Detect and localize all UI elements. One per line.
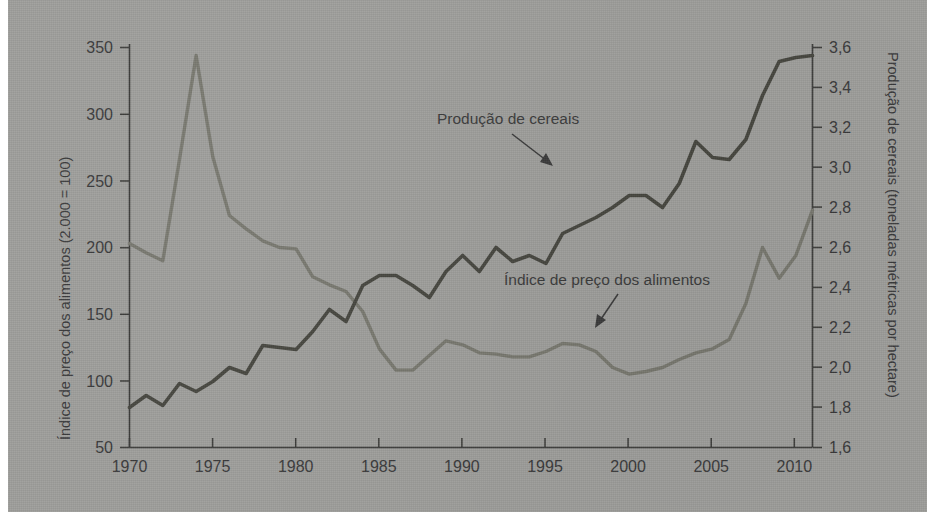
x-tick-label-2005: 2005 — [693, 458, 729, 475]
left-tick-label-50: 50 — [95, 439, 113, 456]
annotation-cereal-production: Produção de cereais — [437, 110, 579, 166]
right-tick-label-1-8: 1,8 — [829, 399, 851, 416]
x-tick-label-2010: 2010 — [777, 458, 813, 475]
annotation-price-label: Índice de preço dos alimentos — [504, 271, 710, 288]
right-axis: 3,6 3,4 3,2 3,0 2,8 2,6 2,4 2,2 2,0 1,8 … — [813, 39, 902, 456]
x-tick-label-1975: 1975 — [195, 458, 231, 475]
series-line-cereal-production — [130, 56, 813, 408]
left-tick-label-100: 100 — [86, 373, 113, 390]
left-tick-label-250: 250 — [86, 173, 113, 190]
x-tick-label-2000: 2000 — [610, 458, 646, 475]
left-axis: 350 300 250 200 150 100 50 Índice de pre… — [57, 39, 130, 456]
x-tick-label-1990: 1990 — [444, 458, 480, 475]
right-axis-title: Produção de cereais (toneladas métricas … — [885, 52, 901, 398]
x-tick-label-1995: 1995 — [527, 458, 563, 475]
left-axis-ticks — [120, 48, 130, 448]
chart-svg: 350 300 250 200 150 100 50 Índice de pre… — [0, 0, 929, 512]
x-tick-label-1985: 1985 — [361, 458, 397, 475]
left-tick-label-200: 200 — [86, 239, 113, 256]
right-tick-label-3-4: 3,4 — [829, 79, 851, 96]
right-axis-ticks — [813, 48, 823, 448]
right-tick-label-2-0: 2,0 — [829, 359, 851, 376]
right-tick-label-2-6: 2,6 — [829, 239, 851, 256]
right-tick-label-3-6: 3,6 — [829, 39, 851, 56]
chart-figure: 350 300 250 200 150 100 50 Índice de pre… — [0, 0, 929, 512]
x-tick-label-1980: 1980 — [278, 458, 314, 475]
left-axis-title: Índice de preço dos alimentos (2.000 = 1… — [57, 157, 73, 440]
annotation-food-price-index: Índice de preço dos alimentos — [504, 271, 710, 328]
x-axis-ticks — [130, 438, 795, 448]
left-page-margin — [0, 0, 8, 512]
annotation-cereal-label: Produção de cereais — [437, 110, 579, 127]
right-tick-label-2-2: 2,2 — [829, 319, 851, 336]
right-tick-label-2-4: 2,4 — [829, 279, 851, 296]
left-tick-label-350: 350 — [86, 39, 113, 56]
left-tick-label-300: 300 — [86, 106, 113, 123]
series-line-food-price-index — [130, 56, 813, 375]
right-tick-label-3-0: 3,0 — [829, 159, 851, 176]
right-tick-label-2-8: 2,8 — [829, 199, 851, 216]
right-tick-label-3-2: 3,2 — [829, 119, 851, 136]
x-tick-label-1970: 1970 — [112, 458, 148, 475]
right-tick-label-1-6: 1,6 — [829, 439, 851, 456]
left-tick-label-150: 150 — [86, 306, 113, 323]
x-axis: 1970 1975 1980 1985 1990 1995 2000 2005 … — [112, 438, 812, 475]
